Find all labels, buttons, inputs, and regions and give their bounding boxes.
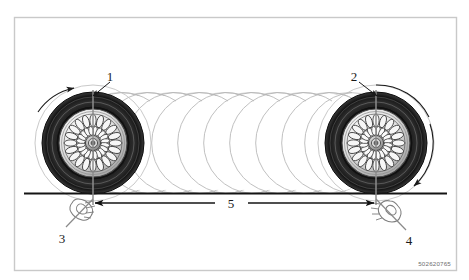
- part-number: 502620765: [418, 260, 451, 267]
- callout-2-label: 2: [351, 69, 358, 84]
- callout-5-label: 5: [228, 196, 235, 211]
- wheel-rolling-diagram: 1 2 3 4 5 502620765: [0, 0, 469, 280]
- callout-1-label: 1: [107, 69, 114, 84]
- callout-3-label: 3: [59, 231, 66, 246]
- callout-4-label: 4: [406, 233, 413, 248]
- figure-root: 1 2 3 4 5 502620765: [0, 0, 469, 280]
